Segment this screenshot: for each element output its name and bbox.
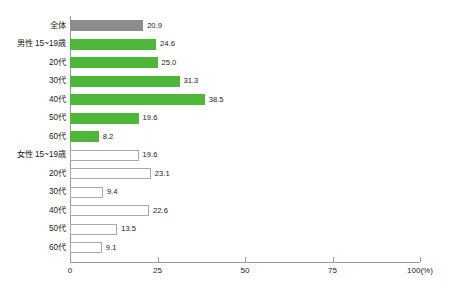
bar-row: 全体20.9 — [0, 17, 465, 36]
bar-row: 50代13.5 — [0, 220, 465, 239]
bar-category-label: 40代 — [0, 91, 66, 110]
bar-row: 20代25.0 — [0, 54, 465, 73]
bar-value-label: 9.1 — [106, 242, 117, 253]
bar-value-label: 20.9 — [147, 20, 162, 31]
x-axis-tick-label: 100(%) — [407, 266, 433, 275]
bar-male — [70, 39, 156, 50]
bar-value-label: 22.6 — [153, 205, 168, 216]
x-axis-line — [70, 262, 420, 263]
bar-male — [70, 113, 139, 124]
bar-value-label: 25.0 — [162, 57, 177, 68]
bar-row: 60代9.1 — [0, 239, 465, 258]
bar-value-label: 9.4 — [107, 186, 118, 197]
x-axis-tick-label: 75 — [328, 266, 337, 275]
bar-female — [70, 224, 117, 235]
bar-male — [70, 76, 180, 87]
bar-row: 男性 15~19歳24.6 — [0, 35, 465, 54]
bar-value-label: 19.6 — [143, 112, 158, 123]
bar-category-label: 男性 15~19歳 — [0, 35, 66, 54]
bar-row: 50代19.6 — [0, 109, 465, 128]
bar-category-label: 20代 — [0, 165, 66, 184]
bar-male — [70, 57, 158, 68]
x-axis-tick — [158, 257, 159, 262]
bar-female — [70, 168, 151, 179]
x-axis-tick-label: 50 — [241, 266, 250, 275]
bar-category-label: 40代 — [0, 202, 66, 221]
bar-value-label: 23.1 — [155, 168, 170, 179]
bar-row: 40代38.5 — [0, 91, 465, 110]
bar-male — [70, 94, 205, 105]
bar-row: 60代8.2 — [0, 128, 465, 147]
bar-value-label: 13.5 — [121, 223, 136, 234]
bar-category-label: 20代 — [0, 54, 66, 73]
bar-row: 30代31.3 — [0, 72, 465, 91]
bar-category-label: 30代 — [0, 72, 66, 91]
bar-row: 30代9.4 — [0, 183, 465, 202]
bar-category-label: 60代 — [0, 239, 66, 258]
x-axis-tick — [245, 257, 246, 262]
bar-category-label: 女性 15~19歳 — [0, 146, 66, 165]
bar-chart: 全体20.9男性 15~19歳24.620代25.030代31.340代38.5… — [0, 0, 465, 290]
bar-value-label: 19.6 — [143, 149, 158, 160]
bar-female — [70, 187, 103, 198]
bar-row: 女性 15~19歳19.6 — [0, 146, 465, 165]
bar-row: 40代22.6 — [0, 202, 465, 221]
bar-category-label: 50代 — [0, 109, 66, 128]
bar-female — [70, 242, 102, 253]
bar-value-label: 31.3 — [184, 75, 199, 86]
bar-category-label: 50代 — [0, 220, 66, 239]
x-axis-tick-label: 0 — [68, 266, 72, 275]
plot-area: 全体20.9男性 15~19歳24.620代25.030代31.340代38.5… — [0, 0, 465, 290]
bar-category-label: 30代 — [0, 183, 66, 202]
bar-value-label: 24.6 — [160, 38, 175, 49]
x-axis-tick-label: 25 — [153, 266, 162, 275]
bar-row: 20代23.1 — [0, 165, 465, 184]
x-axis-tick — [70, 257, 71, 262]
bar-total — [70, 20, 143, 31]
x-axis-tick — [333, 257, 334, 262]
bar-female — [70, 205, 149, 216]
bar-category-label: 全体 — [0, 17, 66, 36]
bar-female — [70, 150, 139, 161]
bar-category-label: 60代 — [0, 128, 66, 147]
bar-value-label: 8.2 — [103, 131, 114, 142]
bar-value-label: 38.5 — [209, 94, 224, 105]
x-axis-tick — [420, 257, 421, 262]
bar-male — [70, 131, 99, 142]
